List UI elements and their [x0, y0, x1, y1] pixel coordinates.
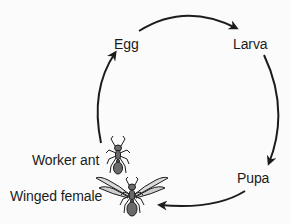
stage-label-winged-female: Winged female — [10, 188, 102, 204]
stage-label-larva: Larva — [233, 36, 268, 52]
stage-label-egg: Egg — [114, 36, 139, 52]
stage-label-worker-ant: Worker ant — [32, 152, 99, 168]
ant-life-cycle-diagram: Egg Larva Pupa Winged female Worker ant — [0, 0, 291, 224]
stage-label-pupa: Pupa — [237, 170, 269, 186]
